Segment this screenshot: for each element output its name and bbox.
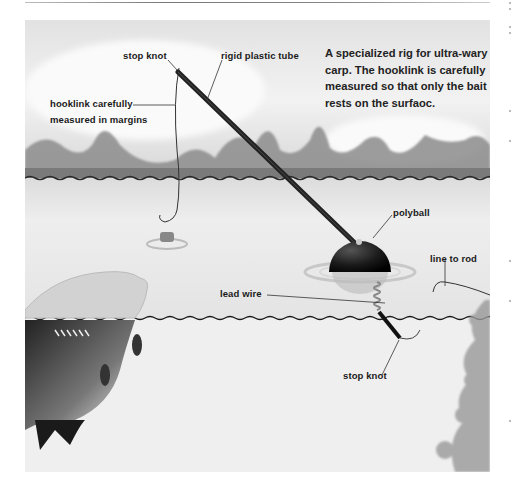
label-lead-wire: lead wire (220, 288, 262, 299)
label-hooklink-line2: measured in margins (50, 114, 147, 125)
label-stop-knot-top: stop knot (123, 50, 167, 61)
label-hooklink-line1: hooklink carefully (50, 98, 133, 109)
label-line-to-rod: line to rod (430, 253, 477, 264)
label-stop-knot-bottom: stop knot (343, 370, 387, 381)
illustration-frame: stop knot rigid plastic tube hooklink ca… (25, 20, 490, 472)
label-rigid-plastic-tube: rigid plastic tube (221, 50, 299, 61)
label-polyball: polyball (393, 207, 430, 218)
top-rule (25, 2, 490, 3)
edge-dots (509, 0, 511, 496)
caption: A specialized rig for ultra-wary carp. T… (325, 45, 490, 111)
bait (160, 232, 174, 242)
